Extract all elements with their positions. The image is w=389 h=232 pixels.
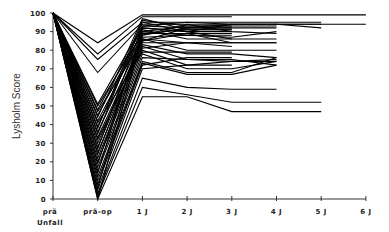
y-tick-label: 50 (35, 103, 46, 111)
x-tick-label: 6 J (360, 208, 371, 216)
y-tick-label: 100 (30, 10, 46, 18)
y-tick-label: 90 (35, 28, 46, 36)
lysholm-score-chart: 0102030405060708090100präUnfallprä-op1 J… (0, 0, 389, 232)
y-tick-label: 0 (41, 196, 46, 204)
y-tick-label: 30 (35, 140, 46, 148)
y-tick-label: 40 (35, 121, 46, 129)
x-tick-label: 4 J (271, 208, 282, 216)
series-lines (53, 13, 366, 199)
y-tick-label: 20 (35, 158, 46, 166)
y-tick-label: 70 (35, 65, 46, 73)
x-tick-label: 1 J (137, 208, 148, 216)
patient-line (53, 13, 321, 104)
x-tick-label: 3 J (226, 208, 237, 216)
x-tick-label: Unfall (37, 219, 63, 227)
x-tick-label: prä-op (83, 208, 112, 216)
y-tick-label: 60 (35, 84, 46, 92)
x-tick-label: 5 J (315, 208, 326, 216)
x-tick-label: prä (43, 208, 58, 216)
y-tick-label: 80 (35, 47, 46, 55)
x-tick-label: 2 J (181, 208, 192, 216)
y-axis-title: Lysholm Score (11, 73, 22, 139)
y-tick-label: 10 (35, 177, 46, 185)
